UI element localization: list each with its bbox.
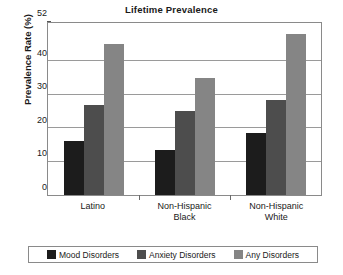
y-tick-label: 10	[5, 148, 47, 158]
y-tick-label: 30	[5, 81, 47, 91]
chart-container: Lifetime Prevalence Prevalence Rate (%) …	[0, 0, 343, 275]
x-tick-label: Non-HispanicWhite	[230, 201, 322, 223]
bar	[64, 141, 84, 195]
bar-group	[48, 23, 139, 195]
legend-item[interactable]: Mood Disorders	[47, 250, 119, 260]
y-tick-label: 52	[5, 8, 47, 18]
y-tick-label: 0	[5, 182, 47, 192]
bar	[84, 105, 104, 195]
x-tick-label: Latino	[47, 201, 139, 223]
legend-label: Anxiety Disorders	[149, 250, 216, 260]
chart-legend: Mood DisordersAnxiety DisordersAny Disor…	[28, 246, 318, 263]
plot-area	[47, 22, 322, 196]
y-tick-label: 20	[5, 115, 47, 125]
legend-swatch-icon	[47, 250, 56, 259]
legend-swatch-icon	[234, 250, 243, 259]
bar	[195, 78, 215, 195]
bar	[175, 111, 195, 195]
chart-title: Lifetime Prevalence	[0, 4, 343, 15]
y-axis: 01020304052	[0, 22, 47, 196]
x-tick-mark	[230, 195, 231, 200]
legend-item[interactable]: Anxiety Disorders	[137, 250, 216, 260]
bar-group	[139, 23, 230, 195]
bar	[266, 100, 286, 195]
bar	[104, 44, 124, 195]
bar	[286, 34, 306, 195]
x-tick-mark	[139, 195, 140, 200]
bar-groups	[48, 23, 321, 195]
y-tick-label: 40	[5, 48, 47, 58]
legend-label: Mood Disorders	[59, 250, 119, 260]
x-tick-label: Non-HispanicBlack	[139, 201, 231, 223]
bar-group	[230, 23, 321, 195]
x-axis-tick-labels: LatinoNon-HispanicBlackNon-HispanicWhite	[47, 201, 322, 223]
bar	[155, 150, 175, 195]
legend-swatch-icon	[137, 250, 146, 259]
bar	[246, 133, 266, 195]
legend-label: Any Disorders	[246, 250, 299, 260]
legend-item[interactable]: Any Disorders	[234, 250, 299, 260]
